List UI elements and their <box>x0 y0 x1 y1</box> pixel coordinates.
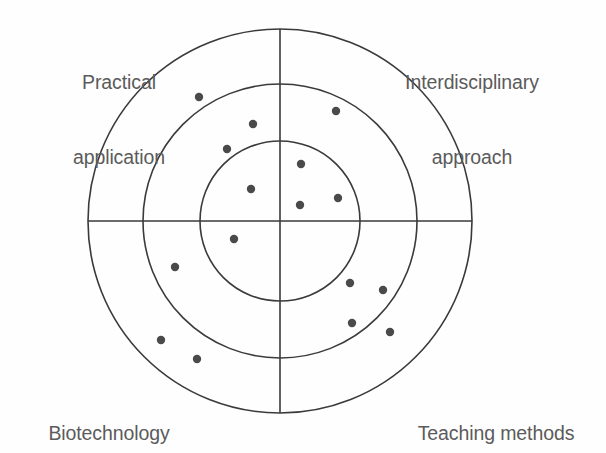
scatter-point <box>157 336 165 344</box>
scatter-point <box>379 286 387 294</box>
scatter-point <box>230 235 238 243</box>
scatter-point <box>348 319 356 327</box>
scatter-point <box>223 145 231 153</box>
scatter-point <box>332 107 340 115</box>
quadrant-label-line-1: Teaching methods <box>398 421 594 446</box>
scatter-point <box>346 279 354 287</box>
quadrant-label-line-1: Interdisciplinary <box>372 70 572 95</box>
scatter-point <box>296 201 304 209</box>
scatter-point <box>297 160 305 168</box>
quadrant-label-interdisciplinary-approach: Interdisciplinary approach <box>372 20 572 220</box>
scatter-point <box>171 263 179 271</box>
quadrant-label-line-1: Biotechnology <box>18 421 200 446</box>
scatter-point <box>249 120 257 128</box>
figure-root: Practical application Interdisciplinary … <box>0 0 606 453</box>
quadrant-label-line-1: Practical <box>38 70 200 95</box>
scatter-point <box>386 328 394 336</box>
scatter-point <box>334 194 342 202</box>
quadrant-label-line-2: application <box>38 145 200 170</box>
quadrant-label-teaching-methods-in-biotechnology: Teaching methods in biotechnology <box>398 371 594 453</box>
quadrant-label-practical-application: Practical application <box>38 20 200 220</box>
scatter-point <box>193 355 201 363</box>
scatter-point <box>247 185 255 193</box>
quadrant-label-biotechnology-in-the-media: Biotechnology in the media <box>18 371 200 453</box>
quadrant-label-line-2: approach <box>372 145 572 170</box>
